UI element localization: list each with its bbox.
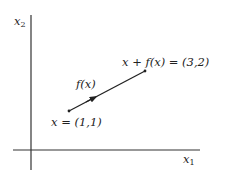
x-axis-label-sub: 1	[190, 158, 195, 167]
start-point-label: x = (1,1)	[51, 117, 102, 129]
y-axis-label: x2	[14, 16, 26, 29]
end-point-dot	[144, 70, 147, 73]
start-point-dot	[68, 110, 71, 113]
y-axis-label-sub: 2	[21, 20, 26, 29]
vector-arrow-icon	[86, 98, 94, 102]
vector-label: f(x)	[76, 79, 96, 91]
x-axis-label: x1	[183, 154, 195, 167]
diagram-canvas	[0, 0, 231, 183]
end-point-label: x + f(x) = (3,2)	[122, 57, 209, 69]
